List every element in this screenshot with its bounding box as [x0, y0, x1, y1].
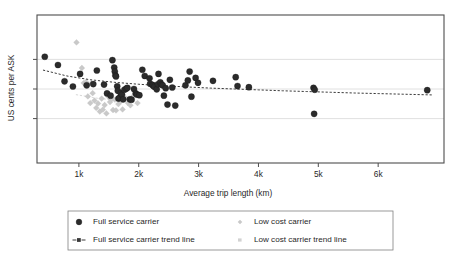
data-point	[94, 67, 100, 73]
data-point	[128, 97, 134, 103]
legend-item-label: Low cost carrier	[254, 217, 311, 226]
legend-item-label: Low cost carrier trend line	[254, 235, 347, 244]
data-point	[312, 87, 318, 93]
scatter-chart: 1k2k3k4k5k6k Average trip length (km) US…	[0, 0, 457, 256]
data-point	[55, 62, 61, 68]
data-point	[169, 84, 175, 90]
data-point	[424, 87, 430, 93]
legend-item-label: Full service carrier	[93, 217, 159, 226]
data-point	[233, 74, 239, 80]
data-point	[108, 93, 114, 99]
legend-marker-square-icon	[77, 238, 81, 242]
data-point	[139, 67, 145, 73]
data-point	[164, 101, 170, 107]
data-point	[61, 78, 67, 84]
data-point	[77, 71, 83, 77]
data-point	[90, 81, 96, 87]
y-axis-title: US cents per ASK	[6, 54, 16, 121]
data-point	[84, 82, 90, 88]
data-point	[210, 78, 216, 84]
data-point	[120, 96, 126, 102]
data-point	[185, 77, 191, 83]
data-point	[161, 93, 167, 99]
data-point	[113, 73, 119, 79]
data-point	[124, 85, 130, 91]
legend-marker-circle-icon	[76, 219, 82, 225]
data-point	[311, 111, 317, 117]
chart-legend: Full service carrierLow cost carrierFull…	[68, 211, 393, 250]
x-tick-label-2: 3k	[194, 169, 204, 179]
data-point	[234, 83, 240, 89]
x-axis-title: Average trip length (km)	[184, 188, 273, 198]
data-point	[195, 80, 201, 86]
data-point	[42, 54, 48, 60]
data-point	[136, 92, 142, 98]
data-point	[188, 94, 194, 100]
x-tick-label-5: 6k	[374, 169, 384, 179]
data-point	[70, 83, 76, 89]
legend-item-label: Full service carrier trend line	[93, 235, 195, 244]
data-point	[101, 81, 107, 87]
x-tick-label-1: 2k	[134, 169, 144, 179]
chart-container: 1k2k3k4k5k6k Average trip length (km) US…	[0, 0, 457, 256]
legend-item-3[interactable]: Low cost carrier trend line	[238, 235, 347, 244]
data-point	[187, 68, 193, 74]
data-point	[109, 57, 115, 63]
data-point	[146, 75, 152, 81]
x-tick-label-4: 5k	[314, 169, 324, 179]
data-point	[167, 77, 173, 83]
legend-marker-faint-icon	[238, 238, 242, 241]
data-point	[163, 85, 169, 91]
x-tick-label-3: 4k	[254, 169, 264, 179]
x-tick-label-0: 1k	[75, 169, 85, 179]
data-point	[155, 71, 161, 77]
data-point	[172, 102, 178, 108]
data-point	[246, 84, 252, 90]
